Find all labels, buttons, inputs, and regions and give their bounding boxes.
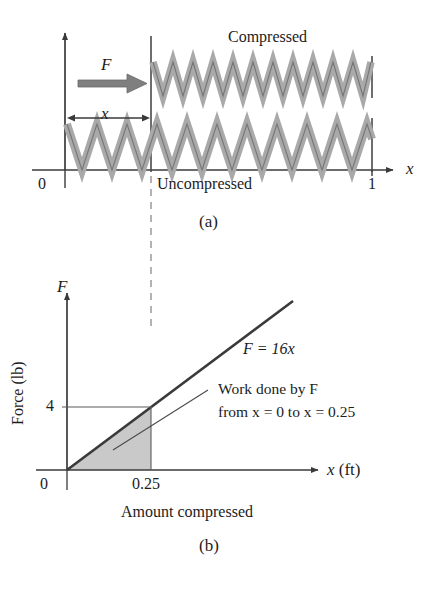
panel-b-x-axis-name: x (ft) xyxy=(327,461,361,478)
panel-a-group xyxy=(32,33,393,188)
compressed-label: Compressed xyxy=(228,29,307,45)
panel-b-tag: (b) xyxy=(199,537,219,554)
panel-b-tick-4: 4 xyxy=(46,398,54,414)
displacement-label: x xyxy=(101,105,109,122)
compressed-spring xyxy=(153,62,371,96)
panel-b-y-axis-title: Force (lb) xyxy=(10,361,26,425)
panel-b-y-axis-name: F xyxy=(57,278,67,295)
force-arrow-icon xyxy=(78,74,147,93)
work-annotation-line-2: from x = 0 to x = 0.25 xyxy=(218,404,355,420)
panel-b-tick-025: 0.25 xyxy=(132,476,160,492)
panel-a-tick-0: 0 xyxy=(38,176,46,192)
panel-b-x-symbol: x xyxy=(327,460,335,479)
panel-a-tick-1: 1 xyxy=(368,176,376,192)
uncompressed-spring xyxy=(67,124,372,170)
uncompressed-label: Uncompressed xyxy=(157,176,252,192)
spring-work-figure: Compressed Uncompressed F x x 0 1 (a) F … xyxy=(0,0,432,594)
panel-a-tag: (a) xyxy=(199,213,218,230)
panel-b-x-unit: (ft) xyxy=(335,460,361,479)
force-arrow-label: F xyxy=(101,56,111,73)
panel-b-x-axis-title: Amount compressed xyxy=(121,504,253,520)
panel-b-tick-0: 0 xyxy=(40,476,48,492)
work-annotation-line-1: Work done by F xyxy=(218,381,318,397)
equation-label: F = 16x xyxy=(243,341,295,357)
panel-a-x-axis-label: x xyxy=(406,160,414,177)
